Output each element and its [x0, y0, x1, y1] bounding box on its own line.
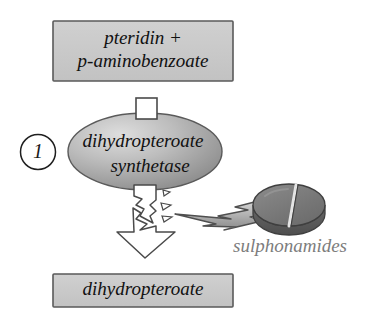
step-badge: 1: [21, 135, 56, 170]
arrow-shard-1: [163, 190, 170, 196]
arrow-shard-3: [162, 216, 172, 222]
substrate-connector-square: [136, 98, 157, 119]
pathway-diagram: pteridin + p-aminobenzoate 1 dihydropter…: [0, 0, 388, 323]
enzyme-label-line2: synthetase: [110, 155, 189, 176]
enzyme-ellipse: dihydropteroate synthetase: [68, 113, 222, 190]
substrate-box-line2: p-aminobenzoate: [76, 50, 209, 71]
enzyme-ellipse-shape: [68, 113, 222, 190]
substrate-box: pteridin + p-aminobenzoate: [53, 21, 233, 81]
drug-label: sulphonamides: [233, 235, 347, 256]
white-square-icon: [136, 98, 157, 119]
pill-tablet-icon: [253, 184, 325, 235]
diagram-canvas: pteridin + p-aminobenzoate 1 dihydropter…: [0, 0, 388, 323]
enzyme-label-line1: dihydropteroate: [82, 130, 203, 151]
product-box-line1: dihydropteroate: [82, 278, 203, 299]
step-number-label: 1: [33, 140, 43, 162]
arrow-shard-2: [161, 203, 171, 210]
product-box: dihydropteroate: [53, 274, 233, 307]
substrate-box-line1: pteridin +: [102, 27, 182, 48]
broken-down-arrow-icon: [117, 185, 175, 258]
